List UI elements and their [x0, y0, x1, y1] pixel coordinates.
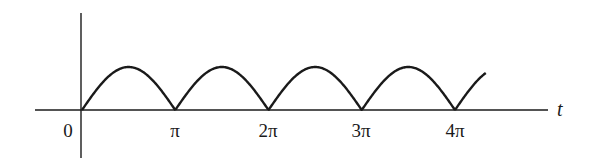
x-axis-label-t: t [557, 98, 563, 120]
abs-sine-chart: 0 π 2π 3π 4π t [0, 0, 594, 158]
tick-label-pi: π [170, 120, 180, 141]
tick-label-4pi: 4π [445, 120, 465, 141]
abs-sine-curve [82, 67, 486, 110]
tick-label-2pi: 2π [258, 120, 278, 141]
tick-label-0: 0 [63, 120, 73, 141]
tick-label-3pi: 3π [351, 120, 371, 141]
